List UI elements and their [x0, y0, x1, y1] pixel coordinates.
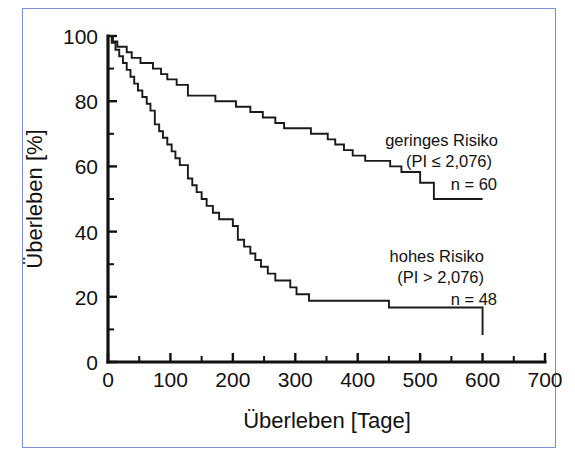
x-tick-label: 500: [403, 368, 438, 391]
legend-high-risk-name: hohes Risiko: [390, 247, 484, 265]
legend-low-risk-n: n = 60: [451, 175, 497, 193]
y-tick-label: 0: [86, 351, 98, 374]
figure-container: 0100200300400500600700 020406080100 Über…: [0, 0, 575, 458]
survival-curve-low-risk: [108, 36, 483, 199]
y-tick-label: 60: [75, 155, 98, 178]
x-tick-label: 100: [153, 368, 188, 391]
y-tick-label: 100: [63, 25, 98, 48]
x-tick-label: 700: [527, 368, 562, 391]
x-tick-label: 200: [215, 368, 250, 391]
y-axis-title: Überleben [%]: [22, 129, 47, 268]
y-tick-label: 80: [75, 90, 98, 113]
x-tick-label: 400: [340, 368, 375, 391]
x-tick-label: 300: [278, 368, 313, 391]
legend-high-risk-pi: (PI > 2,076): [397, 268, 484, 286]
x-tick-label: 0: [102, 368, 114, 391]
y-tick-label: 20: [75, 286, 98, 309]
survival-curve-high-risk: [108, 36, 483, 335]
legend-high-risk-n: n = 48: [451, 290, 497, 308]
legend-low-risk: geringes Risiko (PI ≤ 2,076) n = 60: [385, 131, 498, 193]
y-axis-tick-labels: 020406080100: [63, 25, 98, 374]
x-axis-tick-labels: 0100200300400500600700: [102, 368, 562, 391]
legend-low-risk-pi: (PI ≤ 2,076): [406, 152, 492, 170]
legend-high-risk: hohes Risiko (PI > 2,076) n = 48: [390, 247, 497, 308]
y-tick-label: 40: [75, 221, 98, 244]
x-tick-label: 600: [465, 368, 500, 391]
x-axis-title: Überleben [Tage]: [243, 408, 411, 433]
survival-chart: 0100200300400500600700 020406080100 Über…: [0, 0, 575, 458]
legend-low-risk-name: geringes Risiko: [385, 131, 498, 149]
